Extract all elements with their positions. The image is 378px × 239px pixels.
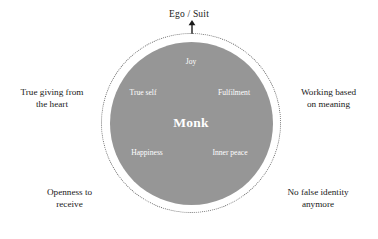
- up-arrow-icon: [186, 20, 198, 34]
- diagram-canvas: Ego / Suit Joy True self Fulfilment Monk…: [0, 0, 378, 239]
- ego-suit-label: Ego / Suit: [0, 8, 378, 20]
- quality-joy: Joy: [155, 57, 227, 67]
- outcome-true-giving-line2: the heart: [2, 98, 102, 110]
- outcome-no-false-identity-line1: No false identity: [262, 186, 374, 198]
- quality-happiness: Happiness: [109, 148, 185, 158]
- outcome-working-meaning-line1: Working based: [281, 86, 376, 98]
- center-label-monk: Monk: [141, 114, 241, 131]
- quality-inner-peace: Inner peace: [190, 148, 270, 158]
- outcome-true-giving: True giving from the heart: [2, 86, 102, 110]
- outcome-working-meaning-line2: on meaning: [281, 98, 376, 110]
- outcome-openness-line1: Openness to: [22, 186, 117, 198]
- outcome-no-false-identity-line2: anymore: [262, 198, 374, 210]
- outcome-openness: Openness to receive: [22, 186, 117, 210]
- outcome-openness-line2: receive: [22, 198, 117, 210]
- quality-fulfilment: Fulfilment: [196, 88, 272, 98]
- outcome-true-giving-line1: True giving from: [2, 86, 102, 98]
- outcome-working-meaning: Working based on meaning: [281, 86, 376, 110]
- quality-true-self: True self: [107, 88, 179, 98]
- outcome-no-false-identity: No false identity anymore: [262, 186, 374, 210]
